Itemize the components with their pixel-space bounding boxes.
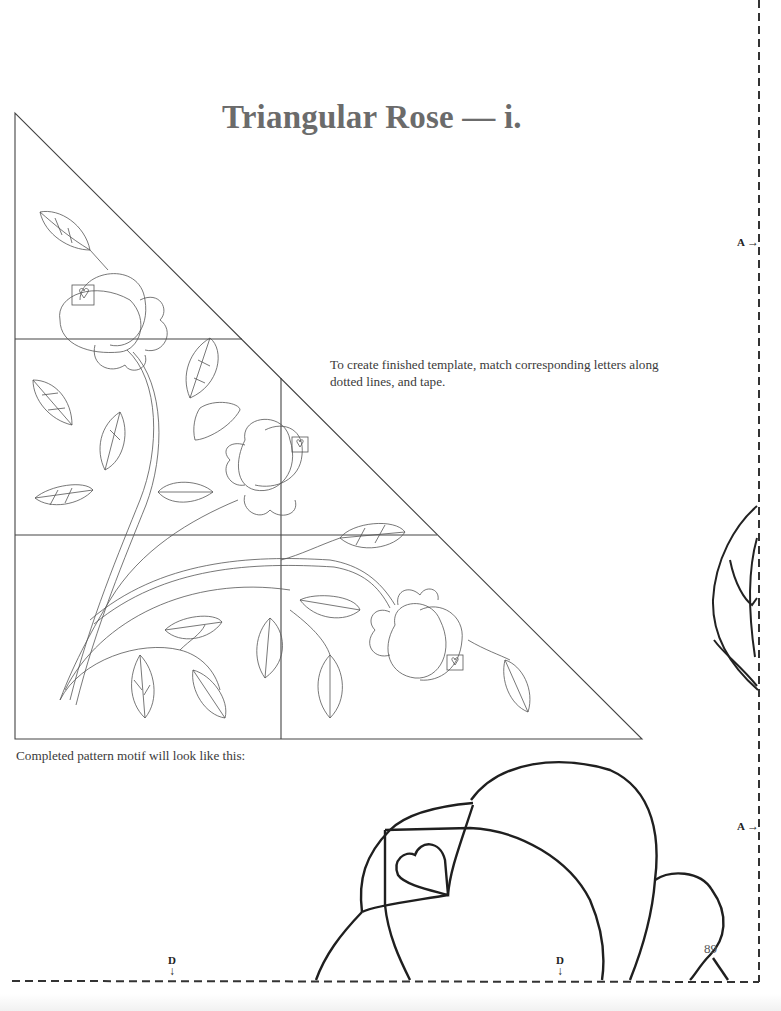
arrow-down-icon: ↓ [556, 966, 564, 977]
match-marker-d-right: D ↓ [556, 955, 564, 977]
instructions-text: To create finished template, match corre… [330, 356, 690, 390]
completed-motif-caption: Completed pattern motif will look like t… [16, 748, 245, 764]
match-marker-a-bottom: A → [737, 819, 759, 834]
arrow-right-icon: → [747, 819, 759, 833]
arrow-right-icon: → [747, 235, 759, 249]
arrow-down-icon: ↓ [168, 966, 176, 977]
pattern-drawing [0, 0, 781, 1011]
match-marker-a-top: A → [737, 235, 759, 250]
completed-rose-motif [316, 762, 728, 980]
partial-leaf-edge [713, 506, 758, 690]
scan-edge-shadow [0, 994, 781, 1011]
page-title: Triangular Rose — i. [222, 99, 522, 136]
marker-letter: A [737, 236, 744, 248]
triangle-template [15, 113, 642, 739]
marker-letter: A [737, 820, 744, 832]
page-number: 89 [704, 941, 717, 957]
match-marker-d-left: D ↓ [168, 955, 176, 977]
